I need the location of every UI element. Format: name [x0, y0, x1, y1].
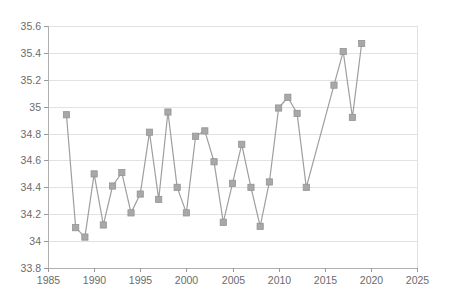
data-point-marker — [239, 141, 245, 147]
y-tick-label: 35 — [29, 101, 41, 113]
data-point-marker — [340, 48, 346, 54]
y-tick-label: 33.8 — [21, 262, 42, 274]
data-point-marker — [349, 114, 355, 120]
data-point-marker — [73, 225, 79, 231]
x-tick-label: 2000 — [175, 274, 199, 286]
data-point-marker — [165, 109, 171, 115]
x-tick-label: 1995 — [129, 274, 153, 286]
data-point-marker — [63, 112, 69, 118]
data-point-marker — [128, 210, 134, 216]
data-point-marker — [359, 40, 365, 46]
data-point-marker — [331, 82, 337, 88]
data-point-marker — [193, 133, 199, 139]
y-tick-label: 34.4 — [21, 181, 42, 193]
x-tick-label: 2025 — [406, 274, 430, 286]
data-point-marker — [82, 234, 88, 240]
data-point-marker — [211, 159, 217, 165]
y-tick-label: 35.6 — [21, 20, 42, 32]
line-chart: 33.83434.234.434.634.83535.235.435.6 198… — [0, 0, 459, 304]
chart-container: 33.83434.234.434.634.83535.235.435.6 198… — [0, 0, 459, 304]
data-point-marker — [294, 110, 300, 116]
data-point-marker — [229, 180, 235, 186]
y-tick-label: 34.8 — [21, 128, 42, 140]
data-point-marker — [119, 169, 125, 175]
x-tick-label: 2005 — [222, 274, 246, 286]
data-point-marker — [174, 184, 180, 190]
y-tick-label: 34.6 — [21, 154, 42, 166]
data-point-marker — [285, 94, 291, 100]
data-point-marker — [266, 179, 272, 185]
data-point-marker — [91, 171, 97, 177]
data-point-marker — [137, 191, 143, 197]
x-axis-tick-labels: 198519901995200020052010201520202025 — [37, 274, 430, 286]
chart-background — [0, 0, 459, 304]
x-tick-label: 1990 — [83, 274, 107, 286]
y-tick-label: 35.4 — [21, 47, 42, 59]
y-tick-label: 34 — [29, 235, 41, 247]
data-point-marker — [220, 219, 226, 225]
y-tick-label: 34.2 — [21, 208, 42, 220]
data-point-marker — [183, 210, 189, 216]
data-point-marker — [248, 184, 254, 190]
x-tick-label: 2015 — [314, 274, 338, 286]
y-tick-label: 35.2 — [21, 74, 42, 86]
data-point-marker — [202, 128, 208, 134]
x-tick-label: 2020 — [360, 274, 384, 286]
x-tick-label: 2010 — [268, 274, 292, 286]
data-point-marker — [257, 223, 263, 229]
data-point-marker — [276, 105, 282, 111]
data-point-marker — [146, 129, 152, 135]
data-point-marker — [109, 183, 115, 189]
data-point-marker — [100, 222, 106, 228]
data-point-marker — [156, 196, 162, 202]
data-point-marker — [303, 184, 309, 190]
x-tick-label: 1985 — [37, 274, 61, 286]
